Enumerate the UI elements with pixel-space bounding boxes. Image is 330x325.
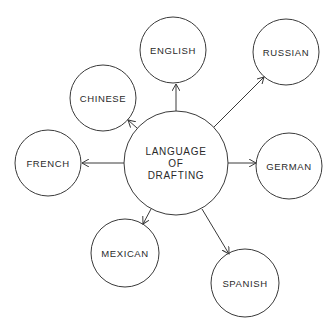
node-german: GERMAN <box>256 133 322 199</box>
node-label: FRENCH <box>26 158 69 169</box>
arrow-to-chinese <box>128 120 137 128</box>
node-label: GERMAN <box>266 161 311 172</box>
node-russian: RUSSIAN <box>253 19 319 85</box>
center-label-line-1: LANGUAGE <box>145 146 206 157</box>
node-spanish: SPANISH <box>211 249 279 317</box>
node-chinese: CHINESE <box>70 65 136 131</box>
node-french: FRENCH <box>15 130 81 196</box>
node-label: MEXICAN <box>101 248 148 259</box>
arrow-to-mexican <box>143 209 151 224</box>
node-mexican: MEXICAN <box>91 219 159 287</box>
language-diagram: LANGUAGE OF DRAFTING ENGLISH RUSSIAN CHI… <box>0 0 330 325</box>
arrow-to-spanish <box>202 209 229 254</box>
node-label: ENGLISH <box>150 45 196 56</box>
node-english: ENGLISH <box>140 17 206 83</box>
node-label: CHINESE <box>80 93 126 104</box>
arrow-to-russian <box>214 77 264 127</box>
node-label: SPANISH <box>222 278 267 289</box>
center-label-line-2: OF <box>168 158 183 169</box>
node-label: RUSSIAN <box>263 47 309 58</box>
center-node: LANGUAGE OF DRAFTING <box>124 111 228 215</box>
center-label-line-3: DRAFTING <box>148 170 205 181</box>
